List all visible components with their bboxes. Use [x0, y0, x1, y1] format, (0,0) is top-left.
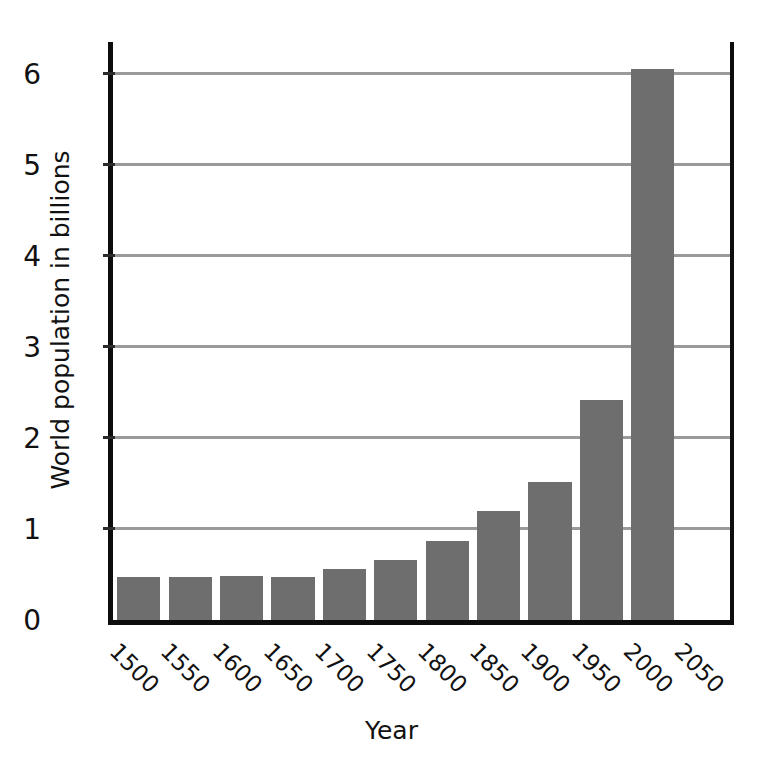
x-tick-label: 1750 — [361, 638, 421, 698]
x-tick-label: 1550 — [156, 638, 216, 698]
y-tick-label: 1 — [1, 512, 41, 545]
x-tick-label: 1800 — [413, 638, 473, 698]
x-tick-label: 1600 — [207, 638, 267, 698]
y-tick-label: 3 — [1, 330, 41, 363]
x-tick-label: 1650 — [259, 638, 319, 698]
x-tick-label: 2050 — [670, 638, 730, 698]
x-tick-label: 1900 — [516, 638, 576, 698]
x-tick-label: 1700 — [310, 638, 370, 698]
bar — [271, 577, 314, 620]
bar — [477, 511, 520, 620]
y-tick-label: 5 — [1, 148, 41, 181]
bar-chart: World population in billions 0123456 150… — [0, 0, 783, 775]
bar — [220, 576, 263, 620]
bar — [426, 541, 469, 620]
bar — [169, 577, 212, 620]
bar — [580, 400, 623, 620]
y-tick-label: 0 — [1, 604, 41, 637]
bar — [117, 577, 160, 620]
bars — [113, 42, 730, 620]
x-tick-label: 1950 — [567, 638, 627, 698]
bar — [528, 482, 571, 620]
bar — [631, 69, 674, 620]
x-axis-title: Year — [0, 716, 783, 745]
bar — [374, 560, 417, 620]
x-tick-label: 1500 — [104, 638, 164, 698]
plot-area — [108, 42, 734, 625]
y-tick-label: 2 — [1, 421, 41, 454]
bar — [323, 569, 366, 620]
x-axis-ticks: 1500155016001650170017501800185019001950… — [0, 0, 783, 120]
y-tick-label: 4 — [1, 239, 41, 272]
x-tick-label: 2000 — [618, 638, 678, 698]
x-tick-label: 1850 — [464, 638, 524, 698]
